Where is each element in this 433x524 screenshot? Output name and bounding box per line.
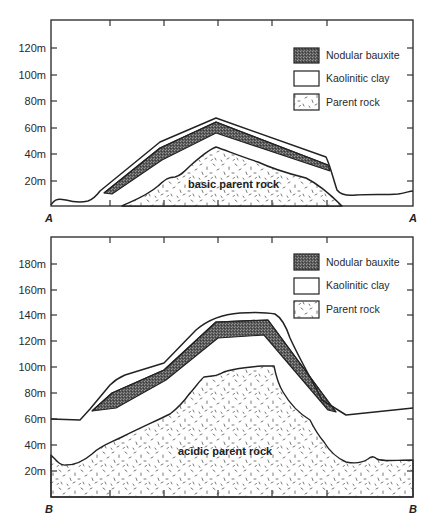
legend-rock-label: Parent rock bbox=[326, 96, 380, 108]
y-label: 40m bbox=[25, 148, 46, 160]
section-a-panel: 120m 100m 80m 60m 40m 20m basic parent r… bbox=[18, 20, 417, 224]
legend-clay-swatch bbox=[294, 71, 319, 86]
y-label: 60m bbox=[25, 122, 46, 134]
y-label: 120m bbox=[18, 42, 46, 54]
legend-bauxite-label: Nodular bauxite bbox=[326, 256, 400, 268]
section-b-left-label: B bbox=[45, 503, 53, 515]
y-label: 140m bbox=[18, 309, 46, 321]
section-a-legend: Nodular bauxite Kaolinitic clay Parent r… bbox=[294, 48, 400, 110]
legend-rock-swatch bbox=[294, 301, 319, 318]
y-label: 40m bbox=[25, 439, 46, 451]
section-a-rock-label: basic parent rock bbox=[188, 178, 280, 190]
section-b-legend: Nodular bauxite Kaolinitic clay Parent r… bbox=[294, 254, 400, 318]
legend-clay-label: Kaolinitic clay bbox=[326, 72, 390, 84]
y-label: 100m bbox=[18, 69, 46, 81]
section-a-right-label: A bbox=[408, 212, 417, 224]
section-b-rock-label: acidic parent rock bbox=[178, 445, 273, 457]
legend-bauxite-label: Nodular bauxite bbox=[326, 49, 400, 61]
legend-bauxite-swatch bbox=[294, 254, 319, 270]
section-a-y-labels: 120m 100m 80m 60m 40m 20m bbox=[18, 42, 46, 187]
y-label: 80m bbox=[25, 95, 46, 107]
legend-rock-label: Parent rock bbox=[326, 303, 380, 315]
legend-bauxite-swatch bbox=[294, 48, 319, 63]
y-label: 20m bbox=[25, 465, 46, 477]
legend-clay-swatch bbox=[294, 278, 319, 294]
section-a-left-label: A bbox=[44, 212, 53, 224]
section-b-top-ticks bbox=[110, 237, 327, 243]
section-b-right-label: B bbox=[409, 503, 417, 515]
y-label: 160m bbox=[18, 284, 46, 296]
section-b-panel: 180m 160m 140m 120m 100m 80m 60m 40m 20m… bbox=[18, 237, 417, 515]
bauxite-cross-sections-diagram: 120m 100m 80m 60m 40m 20m basic parent r… bbox=[0, 0, 433, 524]
y-label: 20m bbox=[25, 175, 46, 187]
section-b-parent-rock bbox=[51, 366, 413, 497]
section-b-y-labels: 180m 160m 140m 120m 100m 80m 60m 40m 20m bbox=[18, 258, 46, 477]
y-label: 60m bbox=[25, 413, 46, 425]
y-label: 80m bbox=[25, 387, 46, 399]
section-a-top-ticks bbox=[110, 20, 327, 26]
legend-clay-label: Kaolinitic clay bbox=[326, 279, 390, 291]
y-label: 100m bbox=[18, 361, 46, 373]
legend-rock-swatch bbox=[294, 94, 319, 110]
y-label: 180m bbox=[18, 258, 46, 270]
y-label: 120m bbox=[18, 335, 46, 347]
